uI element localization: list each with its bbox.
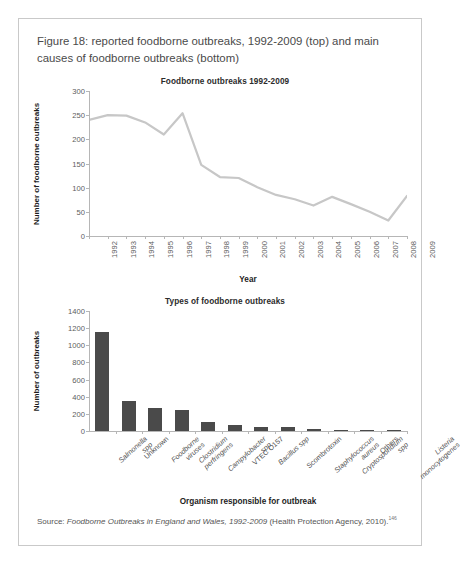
bar-chart-y-tick-mark [86, 362, 89, 363]
line-chart-x-axis [89, 236, 407, 237]
bar-1 [95, 332, 109, 431]
line-chart-x-tick-mark [126, 236, 127, 239]
line-chart-x-tick-mark [332, 236, 333, 239]
line-chart-y-tick-mark [86, 164, 89, 165]
bar-5 [201, 422, 215, 431]
source-tail: (Health Protection Agency, 2010). [267, 517, 388, 526]
line-chart-y-tick-label: 100 [72, 183, 85, 192]
bar-chart-y-tick-label: 600 [72, 375, 85, 384]
line-chart-x-tick-label: 2003 [316, 241, 325, 258]
line-chart-x-tick-mark [295, 236, 296, 239]
line-chart-y-tick-mark [86, 115, 89, 116]
bar-3 [148, 408, 162, 431]
source-note: Source: Foodborne Outbreaks in England a… [37, 513, 409, 527]
line-chart-x-tick-label: 2002 [297, 241, 306, 258]
bar-chart-y-tick-mark [86, 311, 89, 312]
line-chart-series-path [89, 91, 407, 236]
line-chart-x-tick-mark [164, 236, 165, 239]
bar-chart-x-tick-mark [328, 431, 329, 434]
bar-chart-y-tick-label: 800 [72, 358, 85, 367]
line-chart-x-tick-mark [257, 236, 258, 239]
line-chart-x-tick-label: 1993 [129, 241, 138, 258]
bar-chart-y-tick-mark [86, 345, 89, 346]
line-chart-y-tick-label: 50 [77, 207, 85, 216]
line-chart-plot-area [89, 91, 407, 236]
line-chart-y-tick-label: 300 [72, 87, 85, 96]
line-chart-y-axis-title: Number of foodborne outbreaks [32, 102, 41, 224]
source-label: Source: [37, 517, 67, 526]
line-chart-x-tick-mark [388, 236, 389, 239]
bar-chart-y-tick-label: 200 [72, 409, 85, 418]
line-chart-x-tick-mark [239, 236, 240, 239]
line-chart-x-tick-mark [351, 236, 352, 239]
line-chart-x-tick-label: 2008 [409, 241, 418, 258]
bar-chart-x-tick-mark [275, 431, 276, 434]
source-title: Foodborne Outbreaks in England and Wales… [67, 517, 267, 526]
line-chart-y-tick-label: 150 [72, 159, 85, 168]
line-chart-y-tick-label: 0 [81, 232, 85, 241]
line-chart-y-axis [89, 91, 90, 236]
bar-chart-y-tick-label: 1200 [68, 324, 85, 333]
line-chart-x-tick-label: 1996 [185, 241, 194, 258]
line-chart-x-tick-mark [220, 236, 221, 239]
bar-chart-x-tick-mark [354, 431, 355, 434]
line-chart-x-tick-label: 2000 [260, 241, 269, 258]
line-chart-x-tick-mark [407, 236, 408, 239]
line-chart-title: Foodborne outbreaks 1992-2009 [31, 77, 419, 86]
bar-2 [122, 401, 136, 431]
bar-chart-plot-area [89, 311, 407, 431]
line-chart-x-tick-label: 1992 [110, 241, 119, 258]
bar-chart-x-tick-mark [301, 431, 302, 434]
bar-chart-y-axis-title: Number of outbreaks [32, 331, 41, 411]
bar-chart-y-tick-mark [86, 414, 89, 415]
line-chart-x-tick-label: 2005 [353, 241, 362, 258]
line-chart-x-tick-label: 2009 [428, 241, 437, 258]
line-chart-x-tick-label: 2007 [390, 241, 399, 258]
line-chart-x-tick-mark [370, 236, 371, 239]
line-chart-x-tick-mark [183, 236, 184, 239]
bar-chart-category-label: Listeriamonocytogenes [413, 435, 462, 481]
bar-chart-y-tick-label: 1000 [68, 341, 85, 350]
bar-chart-x-tick-mark [407, 431, 408, 434]
line-chart-y-tick-mark [86, 188, 89, 189]
line-chart-x-tick-label: 2004 [334, 241, 343, 258]
line-chart-x-tick-label: 1999 [241, 241, 250, 258]
line-chart-x-tick-label: 1997 [203, 241, 212, 258]
line-chart-y-tick-label: 200 [72, 135, 85, 144]
figure-box: Figure 18: reported foodborne outbreaks,… [18, 18, 422, 546]
bar-chart-x-tick-mark [381, 431, 382, 434]
line-chart-x-tick-mark [276, 236, 277, 239]
bar-chart-x-tick-mark [248, 431, 249, 434]
line-chart-x-tick-label: 1995 [166, 241, 175, 258]
bar-chart-y-tick-label: 400 [72, 392, 85, 401]
source-reference-superscript: 146 [389, 515, 397, 521]
bar-chart-title: Types of foodborne outbreaks [31, 297, 419, 306]
bar-chart-x-tick-mark [116, 431, 117, 434]
bar-4 [175, 410, 189, 431]
bar-chart-types-of-outbreaks: Types of foodborne outbreaks Number of o… [31, 297, 419, 529]
line-chart-y-tick-mark [86, 139, 89, 140]
figure-caption: Figure 18: reported foodborne outbreaks,… [37, 33, 405, 66]
line-chart-foodborne-outbreaks: Foodborne outbreaks 1992-2009 Number of … [31, 77, 419, 289]
bar-chart-y-tick-mark [86, 397, 89, 398]
line-chart-x-tick-label: 1994 [147, 241, 156, 258]
line-chart-x-tick-label: 1998 [222, 241, 231, 258]
line-chart-x-tick-mark [145, 236, 146, 239]
bar-chart-y-tick-mark [86, 380, 89, 381]
line-chart-y-tick-mark [86, 91, 89, 92]
bar-chart-y-tick-label: 0 [81, 427, 85, 436]
line-chart-x-tick-mark [201, 236, 202, 239]
line-chart-x-tick-label: 2006 [372, 241, 381, 258]
line-chart-x-tick-mark [89, 236, 90, 239]
line-chart-x-tick-mark [313, 236, 314, 239]
bar-chart-x-tick-mark [169, 431, 170, 434]
line-chart-x-axis-title: Year [89, 275, 407, 284]
line-chart-y-tick-mark [86, 212, 89, 213]
bar-chart-y-tick-mark [86, 431, 89, 432]
line-chart-x-tick-mark [108, 236, 109, 239]
line-chart-x-tick-label: 2001 [278, 241, 287, 258]
bar-chart-y-tick-mark [86, 328, 89, 329]
bar-chart-y-axis [89, 311, 90, 431]
bar-chart-y-tick-label: 1400 [68, 307, 85, 316]
line-chart-y-tick-label: 250 [72, 111, 85, 120]
